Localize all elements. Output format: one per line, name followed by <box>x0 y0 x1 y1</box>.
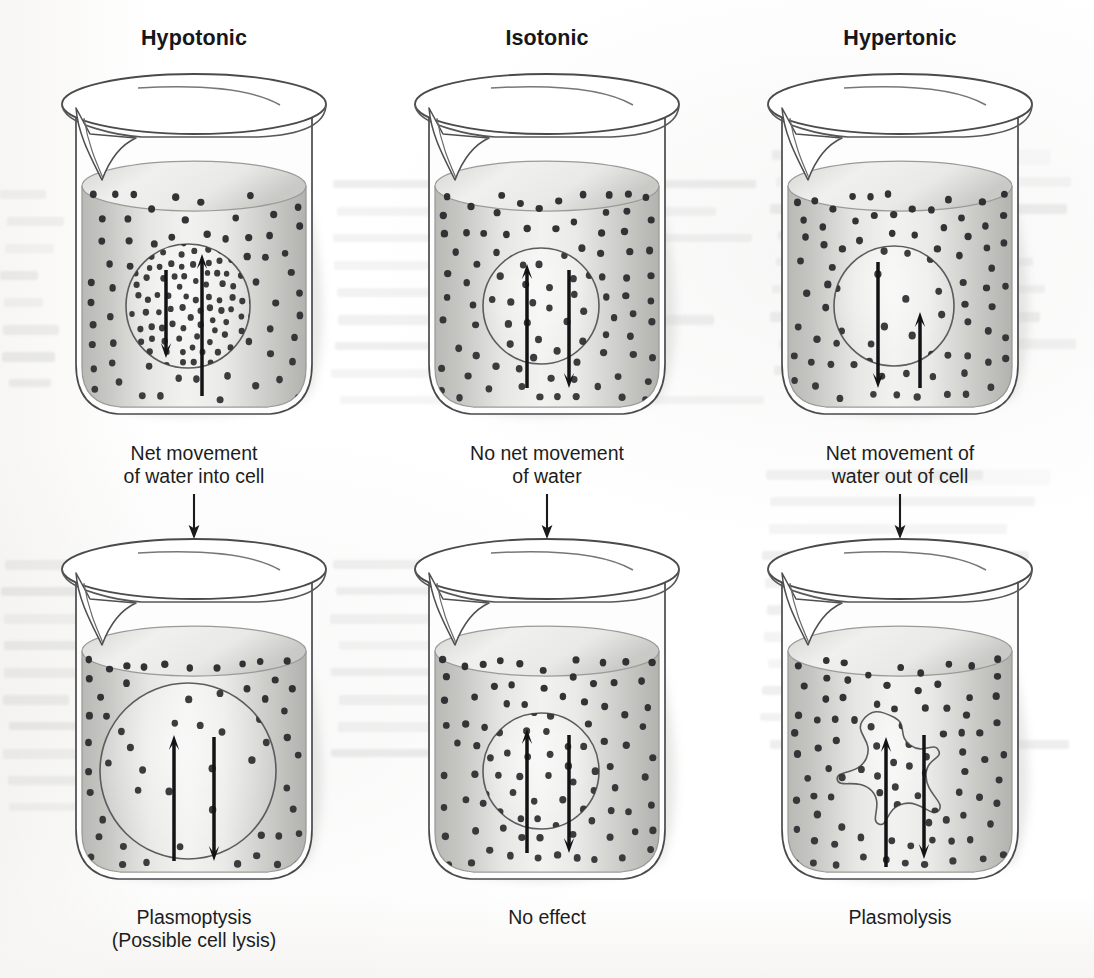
column-header-hypertonic: Hypertonic <box>720 26 1080 51</box>
caption-isotonic-middle: No net movement of water <box>367 442 727 487</box>
caption-hypertonic-middle: Net movement of water out of cell <box>720 442 1080 487</box>
beaker-isotonic-after <box>367 523 727 903</box>
column-header-hypotonic: Hypotonic <box>14 26 374 51</box>
caption-hypotonic-bottom: Plasmoptysis (Possible cell lysis) <box>14 906 374 951</box>
caption-hypertonic-bottom: Plasmolysis <box>720 906 1080 929</box>
beaker-isotonic-before <box>367 58 727 438</box>
beaker-hypotonic-before <box>14 58 374 438</box>
beaker-hypertonic-after <box>720 523 1080 903</box>
beaker-hypertonic-before <box>720 58 1080 438</box>
column-header-isotonic: Isotonic <box>367 26 727 51</box>
caption-hypotonic-middle: Net movement of water into cell <box>14 442 374 487</box>
caption-isotonic-bottom: No effect <box>367 906 727 929</box>
beaker-hypotonic-after <box>14 523 374 903</box>
